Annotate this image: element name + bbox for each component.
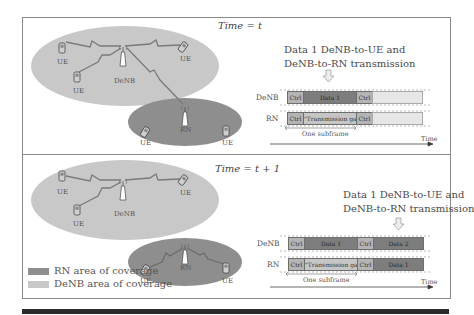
segment-data: Data 1	[304, 237, 358, 250]
time-axis-top	[270, 142, 433, 146]
segment-data: Data 1	[303, 91, 357, 104]
ue-label: UE	[57, 58, 68, 66]
caption-bottom: Data 1 DeNB-to-UE and DeNB-to-RN transmi…	[343, 188, 474, 216]
caption-top: Data 1 DeNB-to-UE and DeNB-to-RN transmi…	[284, 43, 415, 71]
time-axis-bottom	[270, 285, 433, 289]
rn-label: RN	[180, 264, 191, 272]
row-label-denb: DeNB	[257, 239, 280, 248]
ue-label: UE	[57, 188, 68, 196]
segment-ctrl: Ctrl	[288, 237, 305, 250]
ue-phone-icon	[59, 43, 65, 53]
ue-phone-icon	[59, 171, 65, 181]
ue-label: UE	[73, 220, 84, 228]
segment-ctrl: Ctrl	[356, 112, 373, 125]
segment-ctrl: Ctrl	[357, 237, 374, 250]
legend-swatch	[28, 281, 49, 288]
time-axis-label: Time	[421, 135, 437, 143]
segment-ctrl: Ctrl	[288, 258, 305, 271]
legend-swatch	[28, 268, 49, 275]
ue-label: UE	[180, 189, 191, 197]
time-title-bottom: Time = t + 1	[215, 163, 280, 174]
segment-transmission-gap: "Transmission gap"	[303, 112, 357, 125]
ue-label: UE	[222, 277, 233, 285]
segment-transmission-gap: "Transmission gap"	[304, 258, 358, 271]
down-arrow-icon	[393, 218, 404, 230]
segment-data: Data 1	[373, 258, 424, 271]
segment-ctrl: Ctrl	[287, 91, 304, 104]
subframe-label: One subframe	[302, 130, 349, 138]
rn-label: RN	[180, 126, 191, 134]
down-arrow-icon	[323, 70, 334, 82]
denb-label: DeNB	[114, 77, 135, 85]
page-rule	[22, 309, 449, 314]
segment-ctrl: Ctrl	[357, 258, 374, 271]
ue-phone-icon	[223, 126, 229, 136]
ue-phone-icon	[74, 205, 80, 215]
legend-denb-coverage: DeNB area of coverage	[28, 278, 172, 289]
ue-label: UE	[180, 55, 191, 63]
ue-label: UE	[140, 139, 151, 147]
time-axis-label: Time	[421, 278, 437, 286]
ue-label: UE	[73, 87, 84, 95]
row-label-rn: RN	[267, 260, 279, 269]
segment-ctrl: Ctrl	[356, 91, 373, 104]
time-title-top: Time = t	[218, 20, 262, 31]
ue-label: UE	[222, 139, 233, 147]
denb-label: DeNB	[114, 210, 135, 218]
row-label-denb: DeNB	[256, 93, 279, 102]
segment-data: Data 2	[373, 237, 424, 250]
ue-phone-icon	[74, 72, 80, 82]
subframe-label: One subframe	[303, 276, 350, 284]
row-label-rn: RN	[266, 114, 278, 123]
legend-rn-coverage: RN area of coverage	[28, 265, 158, 276]
segment-empty	[372, 91, 423, 104]
top-network	[31, 26, 242, 146]
segment-ctrl: Ctrl	[287, 112, 304, 125]
ue-phone-icon	[223, 263, 229, 273]
segment-empty	[372, 112, 423, 125]
